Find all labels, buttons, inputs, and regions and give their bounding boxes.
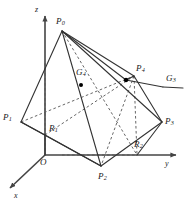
label-axis-x: x [14,192,18,200]
label-axis-y: y [165,160,169,168]
label-P0: P0 [56,17,65,26]
label-origin: O [40,158,47,167]
label-P1: P1 [3,113,12,122]
ray-g3-tail [163,87,183,88]
edge-p3-p4 [134,76,162,122]
label-P3: P3 [165,117,174,126]
g4-point-marker [79,83,83,87]
g3-point-marker [124,78,128,82]
point-markers-group [79,78,128,87]
edge-p0-g3ray [62,31,126,80]
hidden-edges-group [21,31,137,166]
edge-r1-p2 [45,135,101,166]
edge-p3-r2 [137,122,162,155]
label-P2: P2 [98,172,107,181]
label-R1: R1 [49,124,58,133]
edge-p1-r1 [21,122,45,135]
geometry-canvas [0,0,189,209]
dashed-edge-p4-p2 [101,76,134,166]
dashed-edge-p0-base-center [62,31,137,155]
label-G3: G3 [166,74,176,83]
ray-g3 [126,80,163,87]
label-axis-z: z [35,6,38,14]
geometry-figure: P0 P1 P2 P3 P4 R1 R2 G4 G3 O x y z [0,0,189,209]
label-G4: G4 [76,68,86,77]
edge-p2-p3 [101,122,162,166]
edge-p0-p1 [21,31,62,122]
label-P4: P4 [136,64,145,73]
label-R2: R2 [134,140,143,149]
